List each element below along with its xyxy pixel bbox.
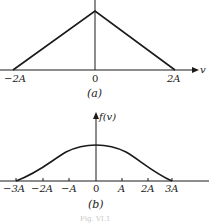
panel-b: f(v) −3A −2A −A 0 A 2A 3A (b) bbox=[0, 111, 209, 211]
panel-b-y-axis-label: f(v) bbox=[98, 111, 116, 122]
figure-caption: Fig. VI.1 bbox=[80, 215, 111, 223]
panel-a-x-axis-arrow-icon bbox=[192, 67, 199, 73]
panel-a-triangle-curve bbox=[13, 11, 175, 70]
panel-a-tick-label: 0 bbox=[92, 73, 98, 84]
panel-b-tick-label: −2A bbox=[31, 183, 53, 194]
panel-b-tick-label: −A bbox=[61, 183, 77, 194]
panel-b-caption: (b) bbox=[88, 198, 104, 211]
panel-a-tick-label: −2A bbox=[4, 73, 26, 84]
panel-b-tick-label: −3A bbox=[3, 183, 25, 194]
figure-canvas: v −2A 0 2A (a) f(v) −3A −2A −A 0 A 2A 3A… bbox=[0, 0, 209, 223]
panel-a-tick-label: 2A bbox=[166, 73, 181, 84]
panel-a-x-axis-label: v bbox=[200, 64, 206, 75]
panel-b-tick-label: 0 bbox=[93, 183, 99, 194]
panel-a-caption: (a) bbox=[87, 87, 102, 100]
panel-b-tick-label: A bbox=[117, 183, 125, 194]
panel-a: v −2A 0 2A (a) bbox=[0, 0, 206, 100]
panel-b-bell-curve bbox=[16, 145, 172, 181]
panel-b-tick-label: 2A bbox=[140, 183, 155, 194]
panel-b-tick-label: 3A bbox=[165, 183, 179, 194]
